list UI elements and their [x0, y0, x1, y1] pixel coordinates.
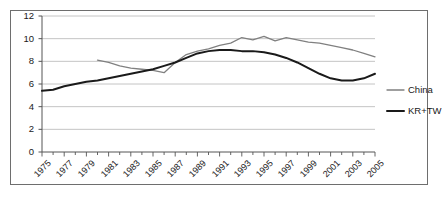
series-line-china — [98, 36, 376, 72]
y-axis-tick-label: 0 — [12, 147, 34, 157]
chart-frame: 0246810121975197719791981198319851987198… — [10, 10, 428, 185]
legend-label-china: China — [408, 84, 433, 95]
legend-label-kr-tw: KR+TW — [408, 105, 442, 116]
y-axis-tick-label: 2 — [12, 124, 34, 134]
x-tick-marks — [42, 152, 375, 157]
y-axis-tick-label: 12 — [12, 11, 34, 21]
series-line-kr-tw — [42, 50, 375, 91]
line-chart-plot — [11, 11, 427, 184]
y-axis-tick-label: 8 — [12, 56, 34, 66]
y-tick-marks — [39, 16, 43, 152]
y-axis-tick-label: 4 — [12, 102, 34, 112]
y-axis-tick-label: 10 — [12, 34, 34, 44]
gridlines — [42, 16, 375, 129]
y-axis-tick-label: 6 — [12, 79, 34, 89]
